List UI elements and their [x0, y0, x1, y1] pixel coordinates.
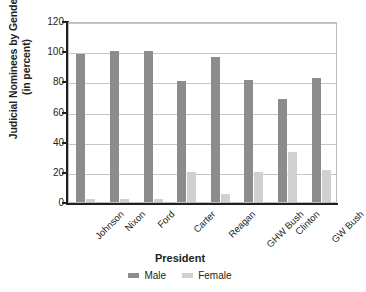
bar-male: [76, 54, 85, 202]
legend-label: Male: [144, 270, 166, 281]
legend-item-female: Female: [182, 270, 231, 281]
bar-female: [187, 172, 196, 202]
y-tick-label: 80: [24, 77, 64, 87]
bar-group: [170, 23, 204, 202]
bar-male: [144, 51, 153, 202]
bar-group: [237, 23, 271, 202]
y-axis-title-line1: Judicial Nominees by Gender: [7, 0, 20, 139]
bar-female: [254, 172, 263, 202]
y-tick-label: 20: [24, 168, 64, 178]
bar-male: [177, 81, 186, 202]
x-tick-label: Reagan: [227, 209, 258, 240]
legend-swatch-female: [182, 273, 193, 278]
bars-layer: [69, 23, 336, 202]
bar-group: [69, 23, 103, 202]
chart-legend: MaleFemale: [0, 270, 360, 281]
x-tick-label: Ford: [156, 209, 177, 230]
bar-group: [304, 23, 338, 202]
y-tick-label: 100: [24, 47, 64, 57]
bar-male: [244, 80, 253, 202]
legend-item-male: Male: [128, 270, 166, 281]
bar-group: [103, 23, 137, 202]
bar-female: [154, 199, 163, 202]
bar-group: [271, 23, 305, 202]
bar-female: [288, 152, 297, 202]
legend-swatch-male: [128, 273, 139, 278]
x-tick-label: GW Bush: [330, 209, 366, 245]
x-tick-label: Carter: [191, 209, 217, 235]
bar-female: [120, 199, 129, 202]
y-tick-label: 40: [24, 138, 64, 148]
bar-group: [204, 23, 238, 202]
x-axis-line: [66, 203, 338, 205]
bar-male: [278, 99, 287, 202]
y-tick-label: 60: [24, 108, 64, 118]
bar-male: [110, 51, 119, 202]
plot-area: [68, 22, 337, 203]
bar-male: [211, 57, 220, 202]
bar-group: [136, 23, 170, 202]
bar-female: [322, 170, 331, 202]
x-tick-label: Nixon: [124, 209, 148, 233]
x-tick-label: Johnson: [93, 209, 125, 241]
bar-female: [86, 199, 95, 202]
legend-label: Female: [198, 270, 231, 281]
x-axis-title: President: [0, 252, 360, 264]
bar-female: [221, 194, 230, 202]
y-tick-label: 120: [24, 17, 64, 27]
y-tick-label: 0: [24, 198, 64, 208]
bar-male: [312, 78, 321, 202]
